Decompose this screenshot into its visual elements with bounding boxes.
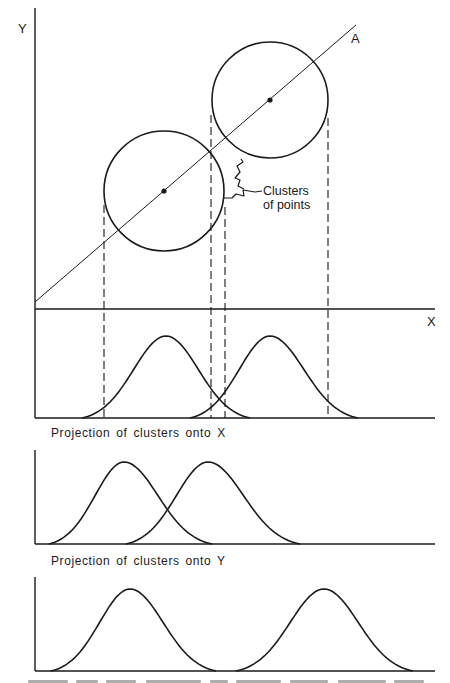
clusters-of-points-label: Clusters of points bbox=[263, 184, 310, 212]
projection-panels bbox=[35, 336, 435, 671]
cluster-1-centroid-dot bbox=[161, 188, 166, 193]
x-axis-label: X bbox=[427, 315, 436, 328]
leader-to-cluster-2 bbox=[235, 159, 244, 189]
projection-onto-line-a-panel bbox=[35, 336, 435, 418]
annotation-leader-lines bbox=[224, 159, 262, 198]
distribution-curve bbox=[49, 462, 212, 544]
scatter-axes bbox=[35, 8, 435, 418]
distribution-curve bbox=[126, 462, 300, 544]
cluster-2-centroid-dot bbox=[267, 97, 272, 102]
projection-onto-x-panel bbox=[35, 450, 435, 544]
line-a-label: A bbox=[351, 32, 360, 45]
cluster-circles bbox=[104, 42, 328, 251]
leader-to-cluster-1 bbox=[224, 190, 262, 198]
distribution-curve bbox=[190, 336, 358, 418]
line-a bbox=[35, 25, 356, 302]
distribution-curve bbox=[51, 589, 216, 671]
truncated-figure-caption bbox=[28, 676, 428, 683]
projection-onto-y-label: Projection of clusters onto Y bbox=[51, 555, 226, 567]
line-a-path bbox=[35, 25, 356, 302]
y-axis-label: Y bbox=[18, 22, 27, 35]
diagram-canvas bbox=[0, 0, 450, 683]
projection-onto-y-panel bbox=[35, 577, 435, 671]
projection-onto-x-label: Projection of clusters onto X bbox=[51, 427, 226, 439]
cluster-projection-diagram: Y A X Clusters of points Projection of c… bbox=[0, 0, 450, 683]
distribution-curve bbox=[236, 589, 413, 671]
